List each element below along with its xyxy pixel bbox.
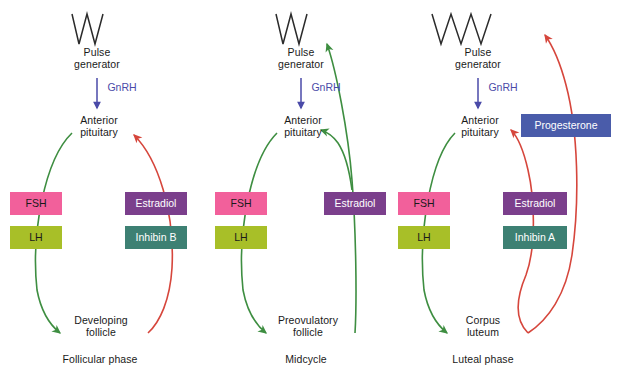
hormone-box-estradiol-follicular[interactable]: Estradiol (125, 192, 187, 215)
hormone-box-inhibin-b-follicular[interactable]: Inhibin B (125, 226, 187, 249)
hormone-box-lh-midcycle[interactable]: LH (215, 226, 267, 249)
target-label-developing-follicle: Developing follicle (51, 314, 151, 338)
hormone-box-progesterone-luteal[interactable]: Progesterone (521, 114, 611, 137)
hormone-box-inhibin-a-luteal[interactable]: Inhibin A (503, 226, 567, 249)
hormone-box-lh-luteal[interactable]: LH (398, 226, 450, 249)
pulse-generator-label-midcycle: Pulse generator (255, 46, 347, 70)
pulse-generator-label-luteal: Pulse generator (432, 46, 524, 70)
gnrh-label-follicular: GnRH (107, 81, 136, 93)
pulse-generator-trace-midcycle (276, 14, 307, 44)
hormone-box-lh-follicular[interactable]: LH (10, 226, 62, 249)
target-label-corpus-luteum: Corpus luteum (438, 314, 528, 338)
gnrh-label-luteal: GnRH (488, 81, 517, 93)
hormone-box-estradiol-luteal[interactable]: Estradiol (503, 192, 567, 215)
target-label-preovulatory-follicle: Preovulatory follicle (253, 314, 363, 338)
pulse-generator-trace-follicular (72, 14, 103, 44)
arrow-corpus-luteum-to-pulse-generator-luteal (528, 35, 577, 333)
phase-label-midcycle: Midcycle (246, 353, 366, 365)
hormone-box-fsh-midcycle[interactable]: FSH (215, 192, 267, 215)
figure-canvas: Pulse generator GnRH Anterior pituitary … (0, 0, 617, 383)
hormone-box-fsh-luteal[interactable]: FSH (398, 192, 450, 215)
anterior-pituitary-label-midcycle: Anterior pituitary (255, 114, 351, 138)
phase-label-follicular: Follicular phase (30, 353, 170, 365)
gnrh-label-midcycle: GnRH (311, 81, 340, 93)
pulse-generator-trace-luteal (432, 14, 491, 44)
anterior-pituitary-label-follicular: Anterior pituitary (51, 114, 147, 138)
phase-label-luteal: Luteal phase (423, 353, 543, 365)
pulse-generator-label-follicular: Pulse generator (51, 46, 143, 70)
hormone-box-estradiol-midcycle[interactable]: Estradiol (324, 192, 386, 215)
hormone-box-fsh-follicular[interactable]: FSH (10, 192, 62, 215)
anterior-pituitary-label-luteal: Anterior pituitary (432, 114, 528, 138)
